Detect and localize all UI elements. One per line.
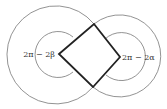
right-angle-label: 2π − 2α: [122, 53, 155, 62]
diagram-svg: 2π − 2β 2π − 2α: [0, 0, 167, 109]
left-angle-label: 2π − 2β: [23, 50, 55, 59]
diagram-canvas: 2π − 2β 2π − 2α: [0, 0, 167, 109]
